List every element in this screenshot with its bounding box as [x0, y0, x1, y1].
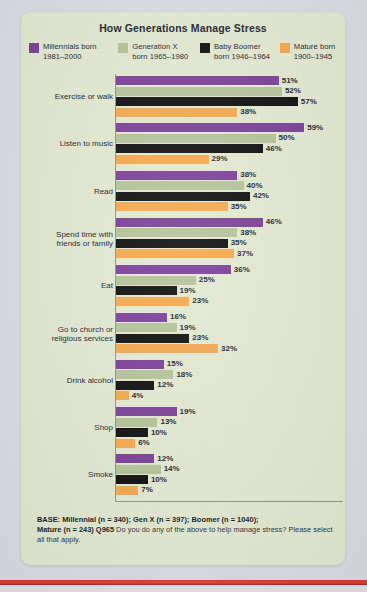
- footnote-base-line1: BASE: Millennial (n = 340); Gen X (n = 3…: [37, 515, 259, 524]
- legend-swatch-millennial: [29, 43, 39, 53]
- bar-value-label: 59%: [307, 123, 323, 133]
- bar-value-label: 12%: [157, 380, 173, 390]
- bar-value-label: 32%: [221, 344, 237, 354]
- bar-row: 16%: [116, 313, 345, 322]
- chart-footnote: BASE: Millennial (n = 340); Gen X (n = 3…: [37, 515, 333, 545]
- bar: [116, 475, 148, 484]
- bar-group-bars: 12%14%10%7%: [116, 454, 345, 496]
- bar-value-label: 38%: [240, 228, 256, 238]
- bar-value-label: 51%: [282, 76, 298, 86]
- category-label: Shop: [27, 423, 113, 433]
- legend-swatch-boomer: [200, 43, 210, 53]
- bar-row: 52%: [116, 87, 345, 96]
- bar-row: 42%: [116, 192, 345, 201]
- bar: [116, 228, 237, 237]
- bar: [116, 171, 237, 180]
- bar-group: Go to church orreligious services16%19%2…: [21, 313, 345, 355]
- bar-group-bars: 16%19%23%32%: [116, 313, 345, 355]
- page-accent-rule: [0, 580, 367, 585]
- bar-row: 23%: [116, 297, 345, 306]
- bar: [116, 344, 218, 353]
- bar-group-bars: 36%25%19%23%: [116, 265, 345, 307]
- bar: [116, 249, 234, 258]
- bar-value-label: 7%: [141, 485, 153, 495]
- category-label-line: Eat: [27, 281, 113, 291]
- bar-group: Spend time withfriends or family46%38%35…: [21, 218, 345, 260]
- bar: [116, 313, 167, 322]
- bar-value-label: 4%: [132, 391, 144, 401]
- bar-group-bars: 59%50%46%29%: [116, 123, 345, 165]
- bar: [116, 407, 177, 416]
- bar-value-label: 19%: [180, 286, 196, 296]
- bar: [116, 155, 209, 164]
- bar-group: Exercise or walk51%52%57%38%: [21, 76, 345, 118]
- bar-group: Drink alcohol15%18%12%4%: [21, 360, 345, 402]
- category-label-line: Drink alcohol: [27, 376, 113, 386]
- x-axis-baseline: [115, 501, 343, 502]
- bar: [116, 123, 304, 132]
- legend-item-boomer: Baby Boomerborn 1946–1964: [200, 42, 277, 61]
- category-label: Go to church orreligious services: [27, 324, 113, 343]
- bar: [116, 265, 231, 274]
- bar-row: 40%: [116, 181, 345, 190]
- bar: [116, 454, 154, 463]
- bar-row: 19%: [116, 286, 345, 295]
- bar-group-bars: 51%52%57%38%: [116, 76, 345, 118]
- footnote-base-line2: Mature (n = 243) Q965: [37, 525, 114, 534]
- category-label: Drink alcohol: [27, 376, 113, 386]
- bar: [116, 108, 237, 117]
- bar-group: Listen to music59%50%46%29%: [21, 123, 345, 165]
- legend-label-line1: Generation X: [132, 42, 177, 51]
- legend-label-line2: 1981–2000: [43, 52, 97, 62]
- bar: [116, 381, 154, 390]
- category-label-line: Go to church or: [27, 324, 113, 334]
- category-label-line: Read: [27, 187, 113, 197]
- bar-value-label: 16%: [170, 312, 186, 322]
- bar-value-label: 19%: [180, 323, 196, 333]
- bar-value-label: 23%: [192, 296, 208, 306]
- legend-swatch-mature: [280, 43, 290, 53]
- bar-row: 38%: [116, 171, 345, 180]
- bar-row: 13%: [116, 418, 345, 427]
- bar-row: 38%: [116, 228, 345, 237]
- bar-group-bars: 46%38%35%37%: [116, 218, 345, 260]
- category-label: Spend time withfriends or family: [27, 229, 113, 248]
- chart-legend: Millennials born1981–2000Generation Xbor…: [29, 42, 339, 61]
- bar-row: 12%: [116, 381, 345, 390]
- bar-row: 15%: [116, 360, 345, 369]
- legend-label-line1: Mature born: [294, 42, 336, 51]
- bar-row: 59%: [116, 123, 345, 132]
- bar: [116, 218, 263, 227]
- bar-value-label: 40%: [247, 181, 263, 191]
- category-label: Exercise or walk: [27, 92, 113, 102]
- bar: [116, 134, 276, 143]
- bar: [116, 370, 173, 379]
- chart-plot-area: Exercise or walk51%52%57%38%Listen to mu…: [21, 74, 345, 508]
- bar-row: 7%: [116, 486, 345, 495]
- bar-row: 10%: [116, 428, 345, 437]
- bar-value-label: 6%: [138, 438, 150, 448]
- category-label: Eat: [27, 281, 113, 291]
- bar-value-label: 38%: [240, 107, 256, 117]
- bar: [116, 144, 263, 153]
- bar-group-bars: 15%18%12%4%: [116, 360, 345, 402]
- legend-label-line1: Millennials born: [43, 42, 97, 51]
- bar-value-label: 15%: [167, 359, 183, 369]
- bar: [116, 97, 298, 106]
- legend-label-boomer: Baby Boomerborn 1946–1964: [214, 42, 270, 61]
- bar-row: 25%: [116, 276, 345, 285]
- bar: [116, 465, 161, 474]
- bar-row: 38%: [116, 108, 345, 117]
- bar-value-label: 14%: [164, 464, 180, 474]
- bar-row: 46%: [116, 144, 345, 153]
- bar-group-bars: 38%40%42%35%: [116, 171, 345, 213]
- bar-value-label: 29%: [212, 154, 228, 164]
- bar-row: 36%: [116, 265, 345, 274]
- bar: [116, 391, 129, 400]
- bar: [116, 202, 228, 211]
- page-bottom-strip: [0, 585, 367, 592]
- bar-row: 12%: [116, 454, 345, 463]
- bar: [116, 239, 228, 248]
- bar: [116, 87, 282, 96]
- bar: [116, 486, 138, 495]
